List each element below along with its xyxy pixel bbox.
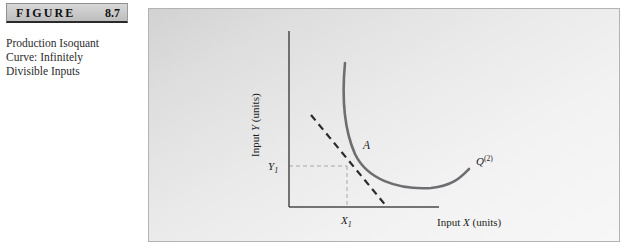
figure-badge-number: 8.7 bbox=[105, 6, 120, 21]
tangent-line bbox=[311, 115, 387, 207]
figure-number-badge: FIGURE 8.7 bbox=[6, 3, 128, 23]
figure-screenshot: FIGURE 8.7 Production Isoquant Curve: In… bbox=[0, 0, 640, 252]
x1-tick-label: X1 bbox=[340, 214, 352, 229]
figure-caption: Production Isoquant Curve: Infinitely Di… bbox=[6, 36, 138, 79]
isoquant-curve-label: Q(2) bbox=[476, 154, 493, 167]
y-axis-title: Input Y (units) bbox=[249, 93, 262, 157]
x-axis-title: Input X (units) bbox=[437, 216, 502, 229]
figure-caption-line-3: Divisible Inputs bbox=[6, 64, 138, 78]
figure-caption-line-1: Production Isoquant bbox=[6, 36, 138, 50]
figure-panel: A Y1 X1 Q(2) Input Y (units) Input X (un… bbox=[148, 8, 620, 242]
y1-tick-label: Y1 bbox=[268, 160, 278, 175]
figure-badge-word: FIGURE bbox=[16, 6, 75, 21]
isoquant-curve bbox=[344, 63, 469, 188]
isoquant-chart: A Y1 X1 Q(2) Input Y (units) Input X (un… bbox=[149, 9, 619, 241]
figure-caption-line-2: Curve: Infinitely bbox=[6, 50, 138, 64]
figure-caption-column: FIGURE 8.7 Production Isoquant Curve: In… bbox=[0, 0, 146, 252]
point-a-label: A bbox=[362, 139, 371, 151]
